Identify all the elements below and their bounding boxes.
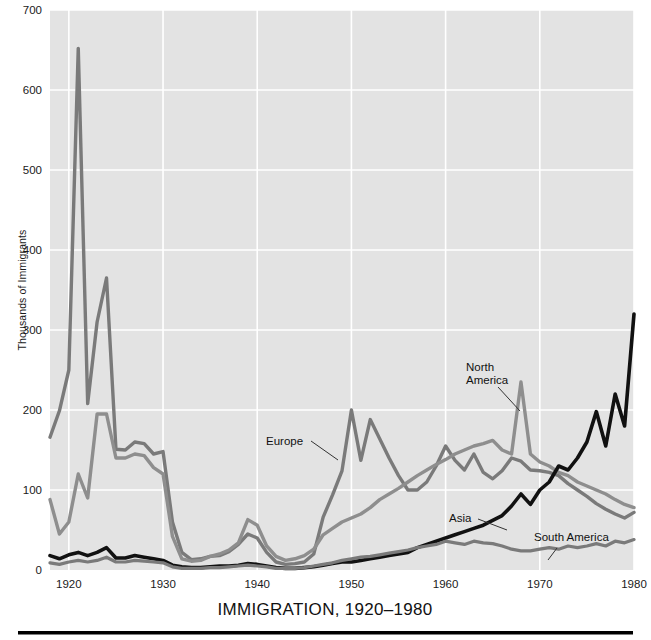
bottom-divider-rule [18,631,633,635]
x-tick-label: 1970 [527,578,553,590]
series-label-north-america-line2: America [466,374,509,386]
y-axis-title: Thousands of Immigrants [16,230,28,351]
series-label-europe: Europe [266,435,303,447]
series-label-north-america-line1: North [466,361,494,373]
y-tick-label: 600 [23,84,42,96]
x-tick-label: 1940 [244,578,270,590]
x-tick-label: 1920 [56,578,82,590]
y-tick-label: 0 [36,564,42,576]
series-label-asia: Asia [449,512,472,524]
y-tick-label: 200 [23,404,42,416]
y-tick-label: 100 [23,484,42,496]
immigration-line-chart: 0100200300400500600700 19201930194019501… [0,0,651,640]
series-label-south-america: South America [534,531,609,543]
chart-title: IMMIGRATION, 1920–1980 [217,600,432,619]
x-tick-label: 1930 [150,578,176,590]
x-tick-label: 1980 [621,578,647,590]
x-tick-label: 1960 [433,578,459,590]
y-tick-label: 500 [23,164,42,176]
y-tick-label: 700 [23,4,42,16]
x-tick-label: 1950 [339,578,365,590]
